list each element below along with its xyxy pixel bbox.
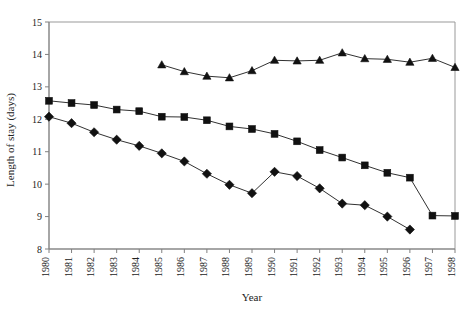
data-point-square [361,162,368,169]
data-point-square [249,126,256,133]
y-tick-label: 14 [32,49,42,60]
x-tick-label: 1989 [243,257,254,277]
data-point-diamond [202,169,211,178]
x-tick-label: 1996 [401,257,412,277]
y-tick-label: 12 [32,114,42,125]
x-tick-label: 1987 [198,257,209,277]
data-point-diamond [135,141,144,150]
y-tick-label: 9 [37,211,42,222]
data-point-diamond [67,119,76,128]
y-axis-ticks [45,22,49,249]
data-point-square [136,108,143,115]
data-point-square [226,123,233,130]
data-point-square [46,97,53,104]
data-point-square [158,113,165,120]
data-point-square [429,212,436,219]
x-tick-label: 1982 [85,257,96,277]
x-tick-label: 1985 [153,257,164,277]
x-tick-label: 1991 [288,257,299,277]
x-tick-label: 1995 [378,257,389,277]
data-point-diamond [338,199,347,208]
data-point-diamond [405,225,414,234]
data-point-square [181,114,188,121]
x-tick-label: 1984 [130,257,141,277]
data-point-diamond [44,112,53,121]
y-tick-label: 15 [32,17,42,28]
length-of-stay-line-chart: 89101112131415 1980198119821983198419851… [0,0,473,312]
data-point-triangle [248,67,256,74]
x-axis-tick-labels: 1980198119821983198419851986198719881989… [40,257,457,277]
x-axis-title: Year [242,291,263,303]
data-point-square [316,147,323,154]
data-series-layer [44,49,459,234]
x-tick-label: 1990 [266,257,277,277]
series-diamond-series [44,112,414,234]
data-point-diamond [315,184,324,193]
x-tick-label: 1980 [40,257,51,277]
x-tick-label: 1981 [63,257,74,277]
series-triangle-series [158,49,459,81]
data-point-diamond [157,149,166,158]
x-tick-label: 1997 [423,257,434,277]
y-tick-label: 11 [32,146,42,157]
data-point-square [68,100,75,107]
data-point-square [452,213,459,220]
x-axis-ticks [49,249,455,253]
data-point-square [113,106,120,113]
data-point-square [271,130,278,137]
series-square-series [46,97,459,219]
data-point-triangle [338,49,346,56]
x-tick-label: 1986 [175,257,186,277]
y-tick-label: 8 [37,244,42,255]
x-tick-label: 1992 [311,257,322,277]
x-tick-label: 1983 [108,257,119,277]
data-point-square [203,117,210,124]
x-tick-label: 1998 [446,257,457,277]
data-point-triangle [158,61,166,68]
data-point-square [294,138,301,145]
data-point-diamond [360,201,369,210]
x-tick-label: 1988 [220,257,231,277]
x-tick-label: 1993 [333,257,344,277]
data-point-diamond [293,171,302,180]
data-point-diamond [90,128,99,137]
data-point-square [339,154,346,161]
x-tick-label: 1994 [356,257,367,277]
chart-figure: 89101112131415 1980198119821983198419851… [0,0,473,312]
data-point-triangle [451,63,459,70]
data-point-square [384,169,391,176]
y-tick-label: 10 [32,179,42,190]
data-point-triangle [270,56,278,63]
plot-frame [49,22,455,249]
data-point-square [406,174,413,181]
data-point-diamond [180,157,189,166]
data-point-diamond [383,212,392,221]
y-tick-label: 13 [32,81,42,92]
data-point-diamond [225,180,234,189]
y-axis-title: Length of stay (days) [4,93,17,187]
data-point-triangle [428,54,436,61]
data-point-square [91,102,98,109]
y-axis-tick-labels: 89101112131415 [32,17,42,255]
data-point-diamond [112,135,121,144]
